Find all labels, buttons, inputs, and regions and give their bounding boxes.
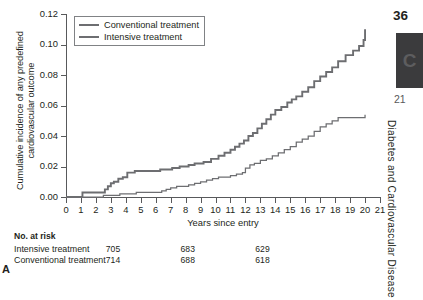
figure-panel-a: Cumulative incidence of any predefined c… <box>0 0 390 300</box>
x-tick <box>305 198 306 203</box>
x-tick <box>365 198 366 203</box>
y-axis-title: Cumulative incidence of any predefined c… <box>15 11 36 211</box>
x-tick <box>216 198 217 203</box>
panel-letter: A <box>2 263 10 275</box>
x-tick <box>320 198 321 203</box>
x-tick <box>96 198 97 203</box>
legend-label: Conventional treatment <box>104 20 199 30</box>
x-tick <box>81 198 82 203</box>
x-tick <box>66 198 67 203</box>
risk-row-value: 629 <box>248 244 278 255</box>
legend-item: Intensive treatment <box>79 31 199 43</box>
x-tick <box>350 198 351 203</box>
page-number: 36 <box>393 8 408 23</box>
x-tick <box>171 198 172 203</box>
x-tick <box>141 198 142 203</box>
risk-table-title: No. at risk <box>14 231 384 241</box>
legend-line-icon <box>79 36 99 37</box>
x-tick <box>275 198 276 203</box>
risk-row-value: 683 <box>173 244 203 255</box>
risk-row-value: 714 <box>98 255 128 266</box>
risk-row-value: 618 <box>248 255 278 266</box>
x-tick <box>126 198 127 203</box>
risk-table-row: Intensive treatment705683629113 <box>14 244 384 255</box>
risk-table-rows: Intensive treatment705683629113Conventio… <box>14 244 384 266</box>
x-axis-title: Years since entry <box>66 217 380 228</box>
risk-table-row: Conventional treatment71468861892 <box>14 255 384 266</box>
series-line <box>66 29 365 197</box>
y-tick-label: 0.12 <box>40 8 58 19</box>
risk-row-label: Intensive treatment <box>14 244 89 255</box>
x-tick <box>290 198 291 203</box>
risk-table: No. at risk Intensive treatment705683629… <box>14 231 384 266</box>
page-edge: 36 C 21 Diabetes and Cardiovascular Dise… <box>390 0 423 300</box>
risk-row-value: 705 <box>98 244 128 255</box>
y-tick-label: 0.10 <box>40 38 58 49</box>
y-tick-label: 0.04 <box>40 130 58 141</box>
legend-line-icon <box>79 24 99 26</box>
x-tick <box>335 198 336 203</box>
x-tick <box>245 198 246 203</box>
x-tick <box>380 198 381 203</box>
plot-area: 0.000.020.040.060.080.100.12 01234567891… <box>66 14 380 197</box>
legend-label: Intensive treatment <box>104 32 182 42</box>
legend-item: Conventional treatment <box>79 19 199 31</box>
x-tick <box>156 198 157 203</box>
running-head: Diabetes and Cardiovascular Disease <box>386 120 397 300</box>
x-tick <box>260 198 261 203</box>
chapter-thumb-tab: C <box>396 33 423 88</box>
x-tick <box>111 198 112 203</box>
chart-legend: Conventional treatmentIntensive treatmen… <box>74 16 205 46</box>
y-tick-label: 0.06 <box>40 99 58 110</box>
risk-row-label: Conventional treatment <box>14 255 106 266</box>
risk-row-value: 688 <box>173 255 203 266</box>
y-tick-label: 0.08 <box>40 69 58 80</box>
x-tick <box>186 198 187 203</box>
y-tick-label: 0.02 <box>40 160 58 171</box>
y-tick-label: 0.00 <box>40 191 58 202</box>
x-tick <box>230 198 231 203</box>
chapter-thumb-glyph: C <box>403 50 417 72</box>
chapter-number: 21 <box>394 93 406 105</box>
x-tick <box>201 198 202 203</box>
